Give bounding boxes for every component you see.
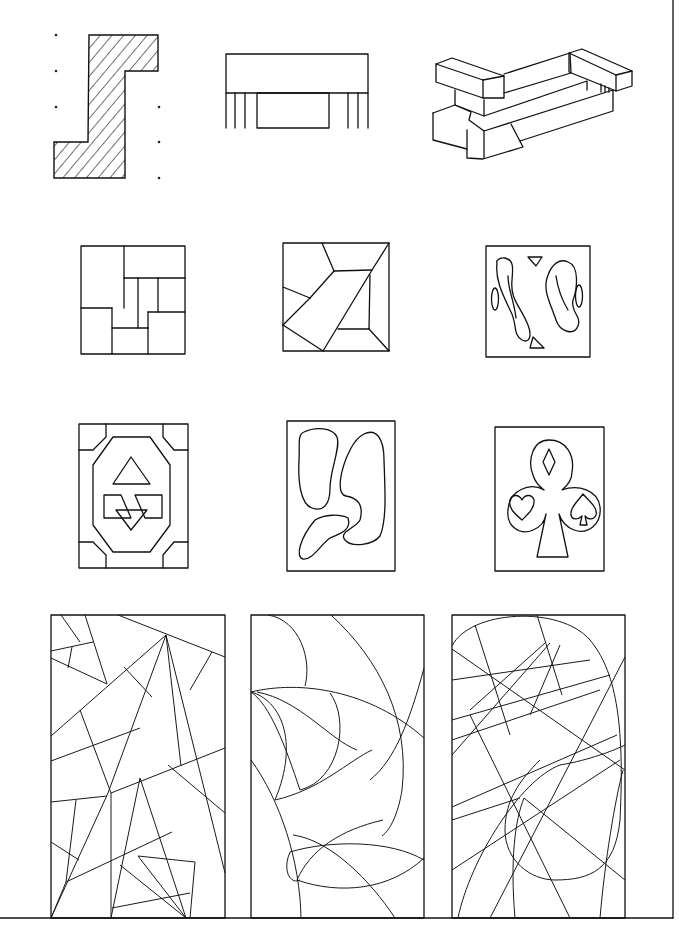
rectangle-panel-pattern xyxy=(81,246,185,354)
organic-blob-pattern xyxy=(287,421,395,571)
card-suit-club-pattern xyxy=(495,427,604,571)
angular-trapezoid-pattern xyxy=(283,243,389,351)
swirl-motif-pattern xyxy=(486,246,590,357)
bar-with-legs-elevation xyxy=(226,54,368,128)
plate-canvas xyxy=(0,0,679,927)
curved-arc-panel xyxy=(251,615,424,918)
oval-and-lines-panel xyxy=(452,615,625,918)
illustration-plate xyxy=(0,0,679,927)
isometric-interlocking-blocks xyxy=(433,49,632,159)
octagon-triangles-pattern xyxy=(79,424,188,568)
straight-line-fracture-panel xyxy=(51,615,225,918)
hatched-stepped-section xyxy=(54,34,160,180)
